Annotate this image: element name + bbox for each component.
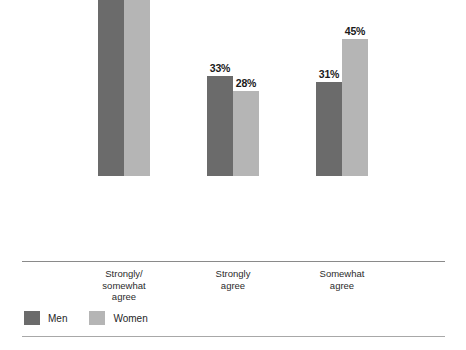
legend-swatch-women-icon bbox=[89, 311, 105, 325]
bar-women[interactable] bbox=[342, 39, 368, 176]
legend-swatch-men-icon bbox=[24, 311, 40, 325]
legend-item-men[interactable]: Men bbox=[24, 311, 67, 325]
bar-value-women: 45% bbox=[345, 25, 365, 37]
legend: Men Women bbox=[24, 311, 170, 325]
bar-value-women: 28% bbox=[236, 77, 256, 89]
legend-label-women: Women bbox=[113, 313, 147, 324]
bar-wrap-women: 45% bbox=[342, 39, 368, 176]
bar-wrap-women: 28% bbox=[233, 91, 259, 176]
bar-chart: 64% 73% 33% 28% bbox=[0, 0, 466, 350]
category-label-3: Somewhat agree bbox=[277, 268, 407, 291]
bottom-divider bbox=[22, 336, 445, 337]
legend-label-men: Men bbox=[48, 313, 67, 324]
bar-wrap-men: 31% bbox=[316, 82, 342, 176]
bar-women[interactable] bbox=[124, 0, 150, 176]
bar-pair: 33% 28% bbox=[207, 76, 259, 176]
category-label-line: Somewhat bbox=[277, 268, 407, 280]
bar-wrap-men: 64% bbox=[98, 0, 124, 176]
x-axis-baseline bbox=[22, 261, 445, 262]
bar-women[interactable] bbox=[233, 91, 259, 176]
bar-men[interactable] bbox=[207, 76, 233, 176]
plot-area: 64% 73% 33% 28% bbox=[0, 0, 466, 264]
bar-value-men: 31% bbox=[319, 68, 339, 80]
category-label-line: agree bbox=[59, 291, 189, 303]
bar-pair: 64% 73% bbox=[98, 0, 150, 176]
bar-wrap-men: 33% bbox=[207, 76, 233, 176]
category-label-line: agree bbox=[277, 280, 407, 292]
legend-item-women[interactable]: Women bbox=[89, 311, 147, 325]
bar-pair: 31% 45% bbox=[316, 39, 368, 176]
bar-value-men: 33% bbox=[210, 62, 230, 74]
bar-men[interactable] bbox=[316, 82, 342, 176]
bar-men[interactable] bbox=[98, 0, 124, 176]
bar-wrap-women: 73% bbox=[124, 0, 150, 176]
